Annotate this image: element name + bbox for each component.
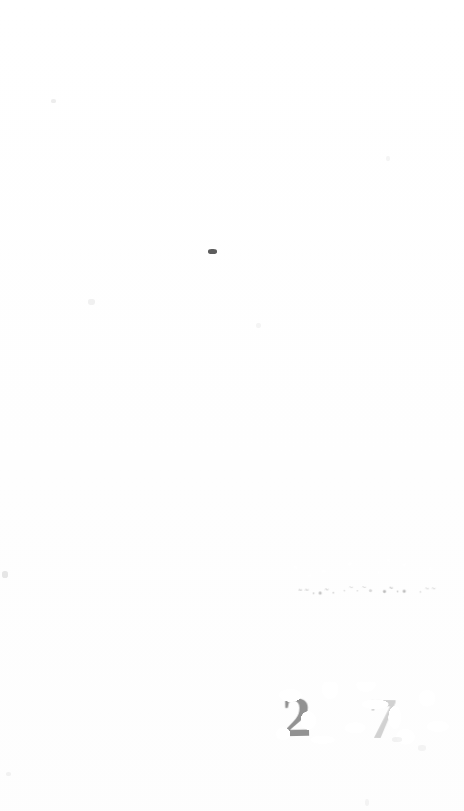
degraded-numerals: 2 7 (282, 688, 450, 750)
faded-text-segment-1: ˜˜·•˜· (298, 581, 338, 606)
speck-top-right (386, 156, 390, 161)
faded-text-segment-3: •˜·• (382, 579, 409, 603)
speck-bottom-left (6, 772, 11, 776)
speck-bottom-right-2 (418, 745, 426, 751)
faded-text-segment-4: ·˜˜ (418, 580, 438, 604)
speck-bottom-center (365, 799, 369, 806)
faded-text-segment-2: ·˜·˜• (342, 579, 375, 603)
speck-center (256, 323, 261, 328)
scanned-page: ˜˜·•˜··˜·˜••˜·•·˜˜ 2 7 (0, 0, 464, 811)
ink-speck-center (208, 249, 217, 254)
speck-left-edge (2, 571, 8, 578)
speck-top-left (51, 99, 56, 103)
speck-bottom-right-1 (392, 737, 402, 742)
speck-middle-left (88, 299, 95, 305)
faded-text-speckle-overlay (276, 555, 452, 581)
faded-text-line: ˜˜·•˜··˜·˜••˜·•·˜˜ (276, 555, 452, 581)
degraded-numeral-left: 2 (281, 688, 312, 747)
